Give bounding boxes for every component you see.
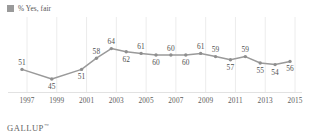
data-point-marker[interactable] — [259, 61, 262, 64]
data-point-marker[interactable] — [125, 50, 128, 53]
data-point-marker[interactable] — [20, 68, 23, 71]
data-point-label: 61 — [137, 42, 145, 51]
plot-area: 5145515864626160606061595759555456 — [0, 17, 310, 95]
trademark-symbol: ™ — [44, 123, 49, 128]
data-point-label: 59 — [242, 45, 250, 54]
line-chart-svg — [0, 17, 310, 95]
data-point-label: 56 — [286, 64, 294, 73]
data-point-marker[interactable] — [110, 47, 113, 50]
data-point-label: 60 — [167, 44, 175, 53]
data-point-marker[interactable] — [95, 57, 98, 60]
x-axis-tick-labels: 1997199920012003200520072009201120132015 — [0, 96, 310, 112]
legend-swatch-icon — [7, 5, 14, 12]
data-point-marker[interactable] — [229, 58, 232, 61]
data-point-label: 60 — [182, 58, 190, 67]
data-point-marker[interactable] — [273, 63, 276, 66]
x-tick-2001: 2001 — [79, 96, 94, 106]
gallup-brand-footer: GALLUP™ — [7, 120, 48, 134]
data-point-marker[interactable] — [214, 55, 217, 58]
x-tick-2007: 2007 — [168, 96, 183, 106]
data-point-marker[interactable] — [288, 60, 291, 63]
x-tick-1997: 1997 — [19, 96, 34, 106]
data-point-label: 51 — [78, 72, 86, 81]
x-tick-2003: 2003 — [109, 96, 124, 106]
data-point-label: 54 — [271, 68, 279, 77]
data-point-label: 51 — [18, 58, 26, 67]
x-tick-2013: 2013 — [258, 96, 273, 106]
data-point-label: 45 — [48, 82, 56, 91]
data-point-marker[interactable] — [80, 68, 83, 71]
data-point-marker[interactable] — [184, 53, 187, 56]
data-point-label: 59 — [212, 45, 220, 54]
x-tick-2009: 2009 — [198, 96, 213, 106]
data-point-label: 62 — [122, 55, 130, 64]
data-point-marker[interactable] — [244, 55, 247, 58]
x-tick-2011: 2011 — [228, 96, 243, 106]
x-tick-1999: 1999 — [49, 96, 64, 106]
data-point-label: 64 — [108, 37, 116, 46]
legend-label: % Yes, fair — [18, 4, 51, 13]
data-point-label: 55 — [256, 66, 264, 75]
data-point-label: 60 — [152, 58, 160, 67]
data-point-marker[interactable] — [154, 53, 157, 56]
x-tick-2015: 2015 — [287, 96, 302, 106]
data-point-marker[interactable] — [169, 53, 172, 56]
data-point-label: 57 — [227, 63, 235, 72]
x-tick-2005: 2005 — [138, 96, 153, 106]
data-point-marker[interactable] — [50, 77, 53, 80]
data-point-label: 61 — [197, 42, 205, 51]
gallup-line-chart-card: % Yes, fair 5145515864626160606061595759… — [0, 0, 310, 137]
data-point-marker[interactable] — [139, 52, 142, 55]
brand-text: GALLUP — [7, 123, 44, 133]
chart-legend: % Yes, fair — [7, 3, 51, 14]
data-point-marker[interactable] — [199, 52, 202, 55]
data-point-label: 58 — [93, 47, 101, 56]
